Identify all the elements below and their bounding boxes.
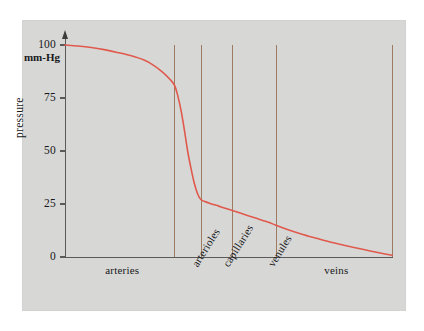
x-axis-label-veins: veins — [324, 265, 348, 276]
y-axis-unit-label: mm-Hg — [14, 52, 60, 63]
x-axis-label-arteries: arteries — [105, 265, 139, 276]
plot-area — [65, 45, 392, 257]
pressure-curve-svg — [65, 45, 392, 257]
y-tick-label-100: 100 — [12, 39, 56, 51]
y-tick-label-25: 25 — [12, 198, 56, 210]
chart-panel: 1007550250 mm-Hg pressure arteriesarteri… — [22, 20, 406, 311]
y-tick-label-50: 50 — [12, 145, 56, 157]
veins-end-divider — [392, 45, 393, 257]
y-axis-title: pressure — [13, 97, 25, 138]
y-axis-arrow-icon — [62, 30, 68, 39]
figure-root: 1007550250 mm-Hg pressure arteriesarteri… — [0, 0, 424, 331]
y-tick-label-0: 0 — [12, 251, 56, 263]
pressure-curve-path — [65, 45, 392, 255]
